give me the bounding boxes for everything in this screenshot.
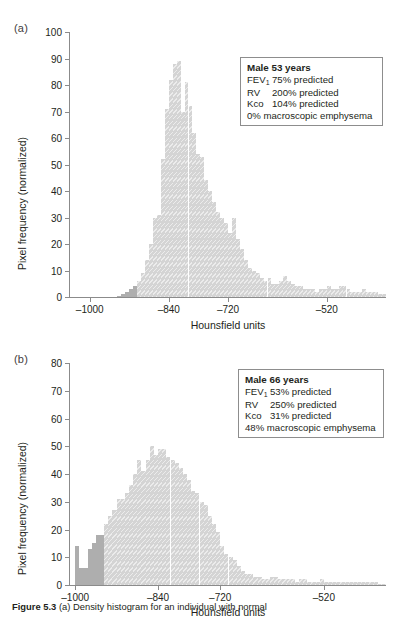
x-axis-tick	[169, 298, 170, 302]
y-axis-tick-label: 10	[32, 552, 62, 563]
panel-b-info-title: Male 66 years	[245, 374, 378, 386]
y-axis-tick-label: 20	[32, 239, 62, 250]
y-axis-tick	[65, 502, 69, 503]
panel-b-info-key: RV	[245, 399, 270, 411]
y-axis-tick-label: 70	[32, 385, 62, 396]
x-axis-line	[69, 585, 386, 586]
y-axis-tick	[65, 59, 69, 60]
y-axis-tick-label: 100	[32, 27, 62, 38]
figure-caption-text: (a) Density histogram for an individual …	[56, 601, 267, 612]
y-axis-tick-label: 60	[32, 413, 62, 424]
x-axis-tick	[220, 586, 221, 590]
y-axis-tick	[65, 32, 69, 33]
y-axis-tick	[65, 112, 69, 113]
y-axis-tick-label: 90	[32, 53, 62, 64]
panel-a-info-key: FEV1	[247, 74, 272, 87]
y-axis-line	[69, 363, 70, 586]
panel-b-info-key: FEV1	[245, 386, 270, 399]
y-axis-tick-label: 50	[32, 159, 62, 170]
panel-a-info-value: 200% predicted	[272, 87, 339, 99]
y-axis-tick-label: 80	[32, 80, 62, 91]
panel-b-info-last-line: 48% macroscopic emphysema	[245, 422, 378, 434]
panel-a-info-last-line: 0% macroscopic emphysema	[247, 110, 377, 122]
x-axis-tick-label: –840	[158, 304, 180, 315]
panel-a-letter: (a)	[14, 22, 28, 34]
y-axis-tick	[65, 297, 69, 298]
y-axis-tick-label: 40	[32, 186, 62, 197]
x-axis-tick-label: –1000	[76, 304, 104, 315]
panel-a-info-key: RV	[247, 87, 272, 99]
x-axis-tick	[158, 586, 159, 590]
y-axis-tick-label: 60	[32, 133, 62, 144]
y-axis-tick-label: 80	[32, 358, 62, 369]
x-axis-tick-label: –520	[316, 304, 338, 315]
y-axis-tick	[65, 363, 69, 364]
y-axis-tick-label: 20	[32, 524, 62, 535]
y-axis-tick	[65, 530, 69, 531]
panel-b-info-row: Kco 31% predicted	[245, 410, 378, 422]
y-axis-line	[69, 32, 70, 298]
y-axis-tick	[65, 585, 69, 586]
panel-b-info-value: 53% predicted	[270, 386, 331, 399]
panel-a-y-axis-title: Pixel frequency (normalized)	[16, 137, 28, 270]
y-axis-tick	[65, 474, 69, 475]
figure-caption: Figure 5.3 (a) Density histogram for an …	[12, 601, 388, 613]
y-axis-tick	[65, 557, 69, 558]
y-axis-tick-label: 40	[32, 469, 62, 480]
y-axis-tick-label: 30	[32, 212, 62, 223]
y-axis-tick	[65, 165, 69, 166]
y-axis-tick	[65, 419, 69, 420]
y-axis-tick-label: 50	[32, 441, 62, 452]
y-axis-tick-label: 0	[32, 292, 62, 303]
y-axis-tick	[65, 391, 69, 392]
x-axis-tick	[228, 298, 229, 302]
panel-b-info-value: 250% predicted	[270, 399, 337, 411]
y-axis-tick-label: 0	[32, 580, 62, 591]
x-axis-tick	[75, 586, 76, 590]
panel-a-info-title: Male 53 years	[247, 62, 377, 74]
y-axis-tick	[65, 138, 69, 139]
panel-a-info-row: RV 200% predicted	[247, 87, 377, 99]
y-axis-tick-label: 70	[32, 106, 62, 117]
panel-b-info-row: RV 250% predicted	[245, 399, 378, 411]
panel-a-info-key: Kco	[247, 98, 272, 110]
panel-b-info-box: Male 66 years FEV1 53% predicted RV 250%…	[238, 369, 384, 438]
x-axis-tick	[324, 586, 325, 590]
panel-a-info-row: FEV1 75% predicted	[247, 74, 377, 87]
y-axis-tick	[65, 244, 69, 245]
panel-b: (b) Pixel frequency (normalized) 0102030…	[0, 325, 395, 615]
x-axis-tick-label: –720	[217, 304, 239, 315]
panel-a-info-value: 75% predicted	[272, 74, 333, 87]
panel-a: (a) Pixel frequency (normalized) 0102030…	[0, 0, 395, 330]
y-axis-tick	[65, 191, 69, 192]
panel-a-info-value: 104% predicted	[272, 98, 339, 110]
y-axis-tick-label: 10	[32, 265, 62, 276]
x-axis-tick	[327, 298, 328, 302]
panel-b-y-axis-title: Pixel frequency (normalized)	[16, 442, 28, 575]
y-axis-tick-label: 30	[32, 496, 62, 507]
panel-a-info-row: Kco 104% predicted	[247, 98, 377, 110]
panel-b-info-row: FEV1 53% predicted	[245, 386, 378, 399]
panel-b-info-key: Kco	[245, 410, 270, 422]
y-axis-tick	[65, 218, 69, 219]
figure-caption-label: Figure 5.3	[12, 601, 56, 612]
y-axis-tick	[65, 271, 69, 272]
x-axis-tick	[90, 298, 91, 302]
y-axis-tick	[65, 85, 69, 86]
panel-b-info-value: 31% predicted	[270, 410, 331, 422]
y-axis-tick	[65, 446, 69, 447]
panel-b-letter: (b)	[14, 353, 28, 365]
panel-a-info-box: Male 53 years FEV1 75% predicted RV 200%…	[240, 57, 383, 126]
